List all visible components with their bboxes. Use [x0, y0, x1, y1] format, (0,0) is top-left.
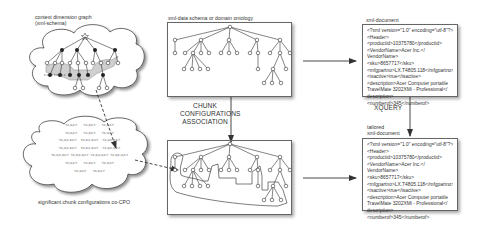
chunk-row: <c,v,c,v,c> <c,v,c,v,c> <c,v,c,v,c> — [32, 137, 147, 145]
context-graph-cloud — [30, 25, 145, 96]
chunk-cloud-label: significant chunk configurations co-CPO — [38, 199, 130, 205]
tailored-document-label: tailored xml-document — [367, 124, 400, 136]
tailored-document-box: <?xml version="1.0" encoding="utf-8"?> <… — [362, 138, 458, 211]
xml-document-box: <?xml version="1.0" encoding="utf-8"?> <… — [362, 24, 458, 97]
chunk-configuration-list: <c,v,c> <c,v,c> <c,v,c> <c,v,c> <c,v,c> … — [32, 122, 147, 175]
xml-document-label: xml-document — [366, 17, 399, 23]
association-box — [167, 140, 292, 215]
chunk-row: <c,v,c> <c,v,c> <c,v,c> — [32, 130, 147, 138]
chunk-row: <c,v,c> <c,v,c> <c,v,c> — [32, 122, 147, 130]
chunk-row: <c,v,c> <c,v,c> — [32, 168, 147, 176]
context-graph-label: context dimension graph (xml-schema) — [35, 14, 92, 26]
schema-box — [167, 22, 292, 97]
chunk-row: <c,v,c,v,c> <c,v,c,v,c> <c,v,c,v,c> — [32, 145, 147, 153]
chunk-row: <c,v,c> <c,v,c> <c,v,c> — [32, 160, 147, 168]
chunk-row: <c,v,c,v,c> <c,v,c,v,c> <c,v,c,v,c> <c,v… — [32, 152, 147, 160]
schema-label: xml-data schema or domain ontology — [168, 15, 253, 21]
association-label: CHUNK CONFIGURATIONS ASSOCIATION — [180, 102, 230, 126]
